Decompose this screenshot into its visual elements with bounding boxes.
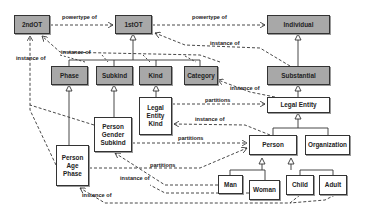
edge-label-instance-category: instance of [230,85,260,91]
edge-label-powertype-2: powertype of [192,14,227,20]
node-organization: Organization [305,135,350,155]
node-woman: Woman [249,180,280,200]
edge-label-partitions-legal-entity: partitions [205,97,230,103]
node-man: Man [218,175,243,194]
node-category: Category [184,66,218,85]
edge-label-instance-1st-to-2nd: instance of [61,49,91,55]
node-legal-entity-kind: Legal Entity Kind [139,97,172,135]
node-child: Child [286,175,314,195]
edge-label-instance-substantial: instance of [210,40,240,46]
node-phase: Phase [51,66,88,85]
node-1st-ot: 1stOT [115,15,152,34]
node-adult: Adult [319,175,347,195]
node-person-gender-subkind: Person Gender Subkind [94,117,132,152]
edge-label-instance-lek: instance of [195,116,225,122]
node-subkind: Subkind [96,66,133,85]
edge-label-instance-pap: instance of [82,192,112,198]
edge-label-partitions-pap: partitions [150,162,175,168]
ontology-diagram: 2ndOT 1stOT Individual Phase Subkind Kin… [0,0,370,215]
edge-label-instance-pgs: instance of [120,175,150,181]
node-legal-entity: Legal Entity [267,97,330,113]
node-person-age-phase: Person Age Phase [56,145,89,186]
edge-label-partitions-pgs: partitions [178,135,203,141]
node-person: Person [249,135,297,155]
node-substantial: Substantial [267,66,330,85]
node-individual: Individual [267,15,330,34]
edge-label-instance-left: instance of [16,55,46,61]
edge-label-powertype-1: powertype of [62,14,97,20]
node-kind: Kind [139,66,172,85]
node-2nd-ot: 2ndOT [14,15,50,34]
